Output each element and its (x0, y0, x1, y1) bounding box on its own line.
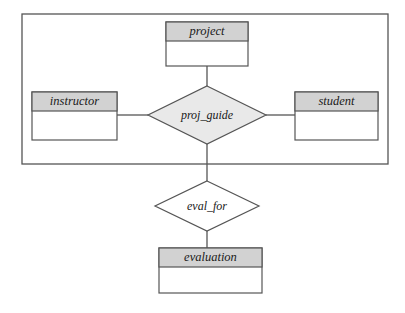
entity-instructor[interactable]: instructor (32, 92, 117, 140)
relationship-eval-for[interactable]: eval_for (155, 181, 259, 231)
evaluation-label: evaluation (184, 250, 237, 264)
er-diagram-canvas: proj_guide eval_for project instructor s… (0, 0, 405, 313)
instructor-label: instructor (50, 94, 99, 108)
entity-project[interactable]: project (166, 22, 248, 66)
entity-student[interactable]: student (295, 92, 378, 140)
relationship-proj-guide[interactable]: proj_guide (148, 86, 266, 144)
entity-evaluation[interactable]: evaluation (159, 248, 262, 293)
project-label: project (189, 24, 225, 38)
eval-for-label: eval_for (187, 199, 227, 213)
proj-guide-label: proj_guide (180, 108, 234, 122)
er-diagram-svg: proj_guide eval_for project instructor s… (0, 0, 405, 313)
student-label: student (318, 94, 355, 108)
